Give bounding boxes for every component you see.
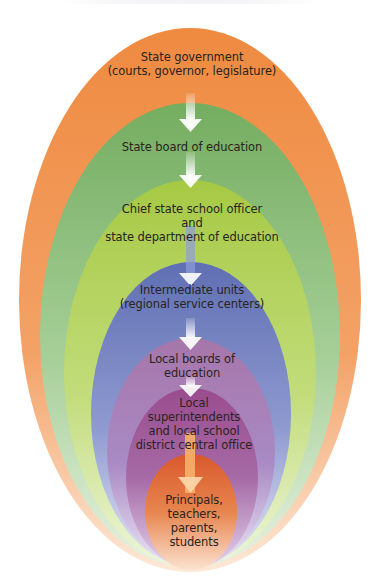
label-line: (regional service centers)	[0, 297, 384, 311]
label-state-board: State board of education	[0, 140, 384, 154]
label-line: superintendents	[2, 410, 384, 424]
label-line: Chief state school officer	[0, 202, 384, 216]
label-line: (courts, governor, legislature)	[0, 64, 384, 78]
label-line: Principals,	[2, 493, 384, 507]
label-intermediate-units: Intermediate units (regional service cen…	[0, 283, 384, 311]
label-line: Local boards of	[0, 352, 384, 366]
label-line: and	[0, 216, 384, 230]
label-line: education	[0, 366, 384, 380]
label-chief-state-school-officer: Chief state school officer and state dep…	[0, 202, 384, 244]
label-line: State board of education	[0, 140, 384, 154]
label-state-government: State government (courts, governor, legi…	[0, 50, 384, 78]
label-line: and local school	[2, 424, 384, 438]
label-line: Intermediate units	[0, 283, 384, 297]
label-line: State government	[0, 50, 384, 64]
label-line: teachers,	[2, 507, 384, 521]
label-line: Local	[2, 396, 384, 410]
label-line: students	[2, 535, 384, 549]
label-line: parents,	[2, 521, 384, 535]
label-line: district central office	[2, 438, 384, 452]
label-principals: Principals, teachers, parents, students	[2, 493, 384, 549]
label-line: state department of education	[0, 230, 384, 244]
label-local-boards: Local boards of education	[0, 352, 384, 380]
label-local-superintendents: Local superintendents and local school d…	[2, 396, 384, 452]
